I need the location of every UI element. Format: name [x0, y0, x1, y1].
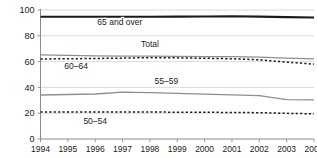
series-inline-labels: 65 and over65 and overTotalTotal60–6460–… [64, 17, 178, 126]
series-label-65-and-over: 65 and over [97, 17, 142, 27]
y-tick-label-40: 40 [24, 83, 34, 93]
y-tick-label-80: 80 [24, 31, 34, 41]
y-tick-label-20: 20 [24, 108, 34, 118]
series-label-60-64: 60–64 [64, 61, 88, 71]
series-label-55-59: 55–59 [154, 76, 178, 86]
x-tick-label-2001: 2001 [222, 144, 241, 154]
y-tick-label-0: 0 [29, 134, 34, 144]
x-tick-label-1995: 1995 [58, 144, 77, 154]
x-tick-label-2002: 2002 [250, 144, 269, 154]
x-tick-label-2004: 2004 [305, 144, 317, 154]
x-tick-label-1994: 1994 [31, 144, 50, 154]
x-tick-label-1996: 1996 [86, 144, 105, 154]
y-tick-label-100: 100 [19, 5, 34, 15]
axis-lines [41, 9, 315, 139]
series-label-total: Total [141, 39, 159, 49]
series-line-65-and-over [41, 16, 315, 17]
series-line-55-59 [41, 92, 315, 100]
x-tick-label-1997: 1997 [113, 144, 132, 154]
x-tick-label-1999: 1999 [168, 144, 187, 154]
x-axis-tick-labels: 1994199519961997199819992000200120022003… [31, 144, 317, 154]
y-axis-tick-labels: 020406080100 [19, 5, 34, 144]
series-label-50-54: 50–54 [83, 116, 107, 126]
chart-canvas: 020406080100 199419951996199719981999200… [0, 0, 317, 158]
line-chart: 020406080100 199419951996199719981999200… [0, 0, 317, 158]
x-tick-label-1998: 1998 [140, 144, 159, 154]
y-tick-label-60: 60 [24, 57, 34, 67]
x-tick-label-2000: 2000 [195, 144, 214, 154]
x-tick-label-2003: 2003 [277, 144, 296, 154]
